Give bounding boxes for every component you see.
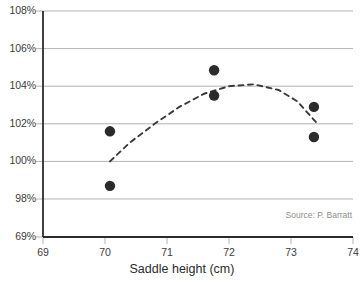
x-tick-label: 73	[276, 246, 306, 258]
x-tick-label: 74	[338, 246, 364, 258]
y-tick-label: 98%	[0, 192, 36, 204]
x-tick-label: 69	[28, 246, 58, 258]
data-points	[105, 65, 319, 191]
data-point-marker	[105, 126, 115, 136]
x-tick-label: 70	[90, 246, 120, 258]
x-axis-ticks	[43, 237, 353, 244]
data-point-marker	[209, 65, 219, 75]
data-point-marker	[309, 102, 319, 112]
data-point-marker	[309, 132, 319, 142]
source-annotation: Source: P. Barratt	[0, 210, 352, 220]
x-axis-title: Saddle height (cm)	[0, 262, 364, 276]
x-tick-label: 72	[214, 246, 244, 258]
y-tick-label: 106%	[0, 42, 36, 54]
y-tick-label: 108%	[0, 4, 36, 16]
y-tick-label: 100%	[0, 154, 36, 166]
data-point-marker	[105, 181, 115, 191]
y-tick-label: 69%	[0, 230, 36, 242]
scatter-chart: 108%106%104%102%100%98%69% 697071727374 …	[0, 0, 364, 284]
plot-area	[0, 0, 364, 284]
data-point-marker	[209, 90, 219, 100]
y-tick-label: 104%	[0, 79, 36, 91]
y-tick-label: 102%	[0, 117, 36, 129]
x-tick-label: 71	[152, 246, 182, 258]
y-axis-ticks	[36, 11, 43, 237]
gridlines	[43, 11, 353, 199]
